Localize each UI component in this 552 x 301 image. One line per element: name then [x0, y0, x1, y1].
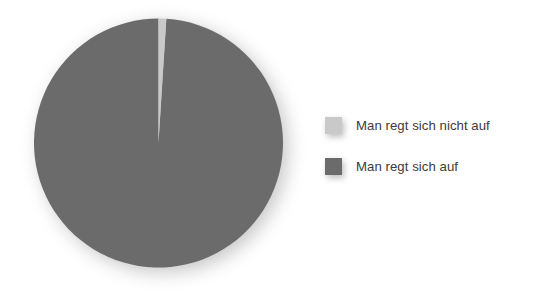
- legend-item-label: Man regt sich auf: [356, 153, 458, 181]
- legend-swatch-light-wrap: [325, 117, 343, 135]
- square-swatch-icon: [325, 158, 342, 175]
- pie-slice-man-regt-sich-auf[interactable]: [34, 18, 283, 267]
- square-swatch-icon: [325, 117, 342, 134]
- pie-chart-figure: Man regt sich nicht auf Man regt sich au…: [0, 0, 552, 301]
- legend-swatch-dark-wrap: [325, 158, 343, 176]
- legend-item-label: Man regt sich nicht auf: [356, 112, 490, 140]
- pie-slices-group: [34, 18, 283, 268]
- pie-chart-plot-area: [34, 18, 283, 268]
